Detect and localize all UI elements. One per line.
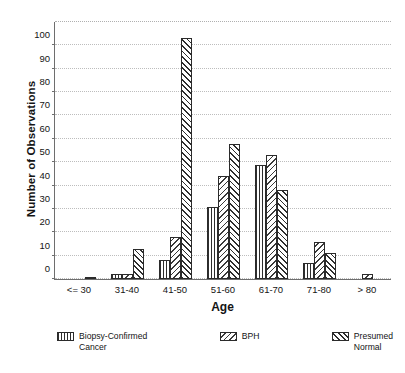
legend-item: BPH xyxy=(220,331,260,342)
bar xyxy=(266,155,277,279)
y-axis-title: Number of Observations xyxy=(25,39,37,259)
bar xyxy=(111,274,122,279)
x-tick-label: > 80 xyxy=(358,284,377,295)
bar xyxy=(170,237,181,279)
bar xyxy=(181,38,192,279)
legend-label: BPH xyxy=(242,331,260,342)
bar xyxy=(277,190,288,279)
bar xyxy=(122,274,133,279)
x-tick-label: 71-80 xyxy=(307,284,331,295)
bar-group xyxy=(151,22,199,279)
bar xyxy=(325,253,336,279)
legend-label: Biopsy-ConfirmedCancer xyxy=(79,331,147,352)
bar xyxy=(362,274,373,279)
x-tick-label: <= 30 xyxy=(67,284,91,295)
bar-group xyxy=(247,22,295,279)
y-tick-label: 50 xyxy=(39,146,50,157)
bar-chart-figure: Number of Observations 01020304050607080… xyxy=(0,0,405,373)
bar-groups xyxy=(55,22,391,279)
legend-item: Biopsy-ConfirmedCancer xyxy=(57,331,147,352)
y-tick-label: 10 xyxy=(39,239,50,250)
y-tick-label: 20 xyxy=(39,216,50,227)
plot-area: 0102030405060708090100 <= 3031-4041-5051… xyxy=(54,22,391,280)
bar-group xyxy=(199,22,247,279)
x-tick-label: 41-50 xyxy=(163,284,187,295)
bar-group xyxy=(55,22,103,279)
legend-swatch xyxy=(57,332,74,341)
y-tick-label: 100 xyxy=(34,29,50,40)
bar xyxy=(314,242,325,279)
bar-group xyxy=(103,22,151,279)
y-tick-label: 90 xyxy=(39,52,50,63)
x-axis-title: Age xyxy=(54,300,391,314)
legend-label: PresumedNormal xyxy=(354,331,393,352)
y-tick-label: 70 xyxy=(39,99,50,110)
legend-swatch xyxy=(220,332,237,341)
legend-item: PresumedNormal xyxy=(332,331,393,352)
x-tick-label: 61-70 xyxy=(259,284,283,295)
bar-group xyxy=(295,22,343,279)
y-tick-label: 60 xyxy=(39,122,50,133)
bar xyxy=(85,277,96,279)
bar xyxy=(218,176,229,279)
bar xyxy=(255,165,266,279)
bar xyxy=(159,260,170,279)
y-tick-label: 0 xyxy=(45,263,50,274)
x-tick-label: 31-40 xyxy=(115,284,139,295)
chart-legend: Biopsy-ConfirmedCancerBPHPresumedNormal xyxy=(57,331,393,352)
plot-inner: 0102030405060708090100 <= 3031-4041-5051… xyxy=(55,22,391,279)
bar xyxy=(303,263,314,279)
y-tick-label: 40 xyxy=(39,169,50,180)
legend-swatch xyxy=(332,332,349,341)
x-tick-label: 51-60 xyxy=(211,284,235,295)
bar-group xyxy=(343,22,391,279)
bar xyxy=(207,207,218,279)
bar xyxy=(133,249,144,279)
bar xyxy=(229,144,240,280)
y-tick-label: 30 xyxy=(39,192,50,203)
y-tick-label: 80 xyxy=(39,76,50,87)
